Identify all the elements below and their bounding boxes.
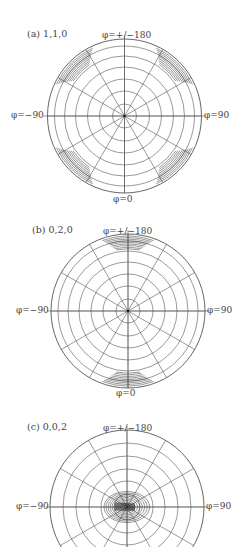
pole-figure-c: (c) 0,0,2 φ=+/−180 φ=−90 φ=90 [0, 0, 241, 547]
polar-plot-c [0, 0, 241, 547]
